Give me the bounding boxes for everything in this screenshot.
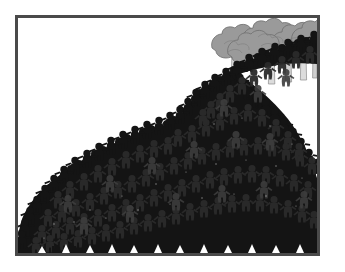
illustration-artboard: A dense black silhouetted crowd of small… <box>0 0 345 272</box>
illustration-plate <box>18 18 317 253</box>
scene-canvas <box>18 18 317 253</box>
illustration-alt-text: Black-and-white illustration: a huge cro… <box>0 16 1 17</box>
illustration-title: Crowd of figures streaming out from a gr… <box>0 16 1 17</box>
illustration-caption: A dense black silhouetted crowd of small… <box>0 16 1 17</box>
